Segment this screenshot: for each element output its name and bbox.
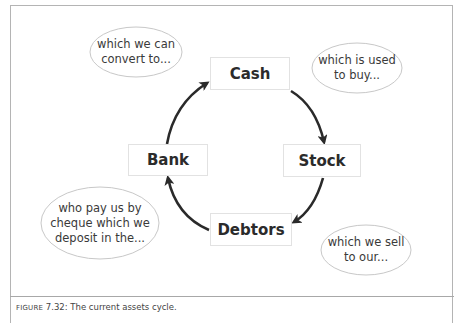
node-label: Bank [147,151,189,169]
node-debtors: Debtors [210,213,292,246]
annotation-line: convert to... [97,52,175,67]
arrow-bank-to-cash [167,83,207,144]
node-label: Cash [230,65,271,83]
annotation-line: to buy... [318,68,396,83]
annotation-line: cheque which we [50,216,150,231]
caption-label: Figure [16,304,43,312]
annotation-line: which is used [318,53,396,68]
caption-number: 7.32: [43,302,68,312]
annotation-line: which we sell [328,235,405,250]
caption-text: The current assets cycle. [68,302,177,312]
annotation-stock-to-debtors: which we sellto our... [321,225,411,275]
node-label: Debtors [217,221,284,239]
annotation-cash-to-stock: which is usedto buy... [312,43,402,93]
arrow-cash-to-stock [291,91,324,142]
arrow-debtors-to-bank [168,178,209,230]
annotation-line: who pay us by [50,201,150,216]
annotation-line: deposit in the... [50,231,150,246]
node-cash: Cash [210,57,290,90]
node-bank: Bank [128,144,208,176]
arrow-stock-to-debtors [294,178,323,222]
annotation-line: which we can [97,37,175,52]
annotation-bank-to-cash: which we canconvert to... [90,27,182,77]
node-stock: Stock [283,144,361,177]
node-label: Stock [298,152,345,170]
annotation-debtors-to-bank: who pay us bycheque which wedeposit in t… [41,187,159,259]
figure-caption: Figure 7.32: The current assets cycle. [16,302,177,312]
annotation-line: to our... [328,250,405,265]
